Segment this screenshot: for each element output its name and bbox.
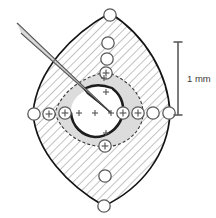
marker-circle-ring [28,108,40,120]
marker-circle-ring [163,107,175,119]
scale-bar: 1 mm [174,42,211,115]
marker-top-1 [104,9,116,21]
marker-right-mid [132,107,144,119]
marker-circle-ring [102,37,114,49]
marker-left-mid [43,108,55,120]
marker-circle-ring [104,9,116,21]
marker-circle-ring [99,170,111,182]
marker-bottom-1 [99,140,111,152]
marker-left-inner [59,107,71,119]
scale-bar-label: 1 mm [187,73,211,84]
marker-circle-ring [98,200,110,212]
marker-bottom-2 [99,170,111,182]
marker-top-2 [102,37,114,49]
marker-circle-ring [101,53,113,65]
lens-cross-section-figure: 1 mm [0,0,216,218]
marker-left-outer [28,108,40,120]
marker-right-outer1 [147,107,159,119]
marker-top-3 [101,53,113,65]
marker-top-4 [100,67,112,79]
marker-right-outer2 [163,107,175,119]
marker-circle-ring [147,107,159,119]
marker-right-inner [117,107,129,119]
figure-container: 1 mm [0,0,216,218]
marker-bottom-3 [98,200,110,212]
